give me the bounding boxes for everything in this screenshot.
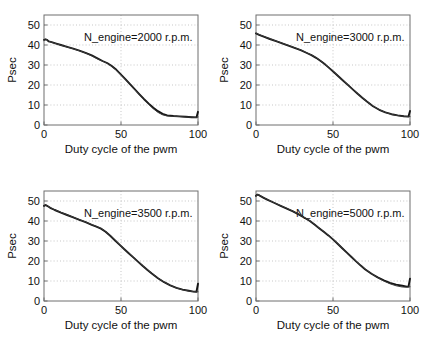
y-tick-label: 50 [28, 195, 40, 207]
x-axis-label: Duty cycle of the pwm [65, 143, 177, 155]
subplot-top-left: 01020304050050100Duty cycle of the pwmPs… [0, 0, 211, 176]
x-tick-label: 50 [327, 304, 339, 316]
series-line-measured [256, 33, 410, 116]
y-axis-label: Psec [218, 57, 230, 83]
y-tick-label: 50 [28, 19, 40, 31]
y-tick-label: 10 [240, 99, 252, 111]
y-tick-label: 30 [240, 59, 252, 71]
x-tick-label: 0 [253, 128, 259, 140]
y-tick-label: 40 [240, 39, 252, 51]
y-tick-label: 30 [240, 235, 252, 247]
y-tick-label: 50 [240, 19, 252, 31]
annotation-text: N_engine=5000 r.p.m. [296, 207, 405, 219]
y-tick-label: 0 [246, 119, 252, 131]
x-tick-label: 100 [189, 304, 207, 316]
subplot-top-right: 01020304050050100Duty cycle of the pwmPs… [212, 0, 423, 176]
x-tick-label: 100 [401, 304, 419, 316]
y-tick-label: 40 [28, 215, 40, 227]
annotation-text: N_engine=3500 r.p.m. [84, 207, 193, 219]
y-tick-label: 20 [240, 255, 252, 267]
x-tick-label: 50 [115, 128, 127, 140]
x-tick-label: 0 [253, 304, 259, 316]
x-axis-label: Duty cycle of the pwm [65, 319, 177, 331]
y-tick-label: 10 [240, 275, 252, 287]
y-tick-label: 40 [28, 39, 40, 51]
x-tick-label: 0 [41, 304, 47, 316]
plot-content-top-left: 01020304050050100Duty cycle of the pwmPs… [6, 15, 207, 155]
plot-svg-bottom-right: 01020304050050100Duty cycle of the pwmPs… [212, 176, 423, 352]
annotation-text: N_engine=3000 r.p.m. [296, 31, 405, 43]
y-tick-label: 20 [28, 255, 40, 267]
plot-svg-bottom-left: 01020304050050100Duty cycle of the pwmPs… [0, 176, 211, 352]
y-tick-label: 0 [246, 295, 252, 307]
annotation-text: N_engine=2000 r.p.m. [84, 31, 193, 43]
y-axis-label: Psec [218, 233, 230, 259]
y-tick-label: 30 [28, 59, 40, 71]
x-tick-label: 100 [401, 128, 419, 140]
x-tick-label: 0 [41, 128, 47, 140]
x-axis-label: Duty cycle of the pwm [277, 319, 389, 331]
y-tick-label: 0 [34, 295, 40, 307]
y-tick-label: 20 [28, 79, 40, 91]
subplot-bottom-right: 01020304050050100Duty cycle of the pwmPs… [212, 176, 423, 352]
plot-content-bottom-left: 01020304050050100Duty cycle of the pwmPs… [6, 191, 207, 331]
subplot-bottom-left: 01020304050050100Duty cycle of the pwmPs… [0, 176, 211, 352]
plot-svg-top-left: 01020304050050100Duty cycle of the pwmPs… [0, 0, 211, 176]
y-axis-label: Psec [6, 233, 18, 259]
y-tick-label: 0 [34, 119, 40, 131]
y-tick-label: 10 [28, 275, 40, 287]
figure-canvas: 01020304050050100Duty cycle of the pwmPs… [0, 0, 423, 352]
x-tick-label: 50 [327, 128, 339, 140]
plot-content-top-right: 01020304050050100Duty cycle of the pwmPs… [218, 15, 419, 155]
x-tick-label: 100 [189, 128, 207, 140]
series-line-model [256, 33, 410, 116]
y-tick-label: 20 [240, 79, 252, 91]
y-tick-label: 40 [240, 215, 252, 227]
y-axis-label: Psec [6, 57, 18, 83]
y-tick-label: 30 [28, 235, 40, 247]
x-axis-label: Duty cycle of the pwm [277, 143, 389, 155]
y-tick-label: 50 [240, 195, 252, 207]
y-tick-label: 10 [28, 99, 40, 111]
plot-svg-top-right: 01020304050050100Duty cycle of the pwmPs… [212, 0, 423, 176]
plot-content-bottom-right: 01020304050050100Duty cycle of the pwmPs… [218, 191, 419, 331]
x-tick-label: 50 [115, 304, 127, 316]
